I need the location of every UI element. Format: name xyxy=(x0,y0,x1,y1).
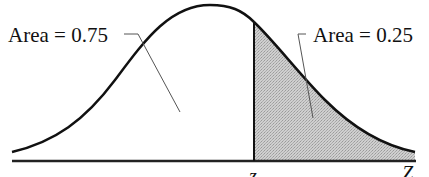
right-area-label: Area = 0.25 xyxy=(313,23,413,47)
axis-z-label: Z xyxy=(402,162,414,177)
normal-curve-diagram: Area = 0.75 Area = 0.25 z Z xyxy=(0,0,429,177)
cutoff-z-label: z xyxy=(248,165,257,177)
left-leader-line xyxy=(124,34,180,112)
left-area-label: Area = 0.75 xyxy=(8,23,108,47)
